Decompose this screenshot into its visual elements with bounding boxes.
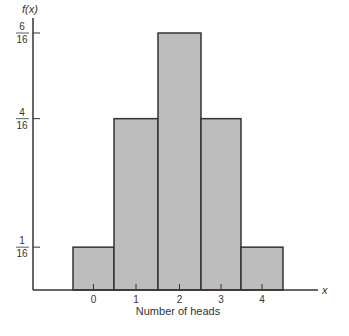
bar-3 (201, 119, 241, 290)
bar-0 (73, 247, 114, 290)
x-axis-label: Number of heads (136, 305, 221, 317)
y-tick-numerator: 4 (19, 107, 25, 118)
y-tick-denominator: 16 (16, 120, 28, 131)
bar-2 (158, 33, 201, 290)
x-tick-label: 1 (133, 294, 139, 305)
x-tick-label: 2 (177, 294, 183, 305)
bar-4 (241, 247, 283, 290)
histogram-chart: 116416616 01234 f(x) x Number of heads (0, 0, 349, 336)
x-tick-label: 3 (218, 294, 224, 305)
y-ticks: 116416616 (16, 21, 40, 259)
y-axis-label: f(x) (22, 3, 38, 15)
x-tick-label: 4 (259, 294, 265, 305)
x-tick-label: 0 (91, 294, 97, 305)
x-axis-symbol: x (321, 284, 328, 296)
y-tick-denominator: 16 (16, 248, 28, 259)
y-tick-numerator: 1 (19, 235, 25, 246)
bar-1 (114, 119, 158, 290)
bars-group (73, 33, 283, 290)
y-tick-numerator: 6 (19, 21, 25, 32)
y-tick-denominator: 16 (16, 34, 28, 45)
